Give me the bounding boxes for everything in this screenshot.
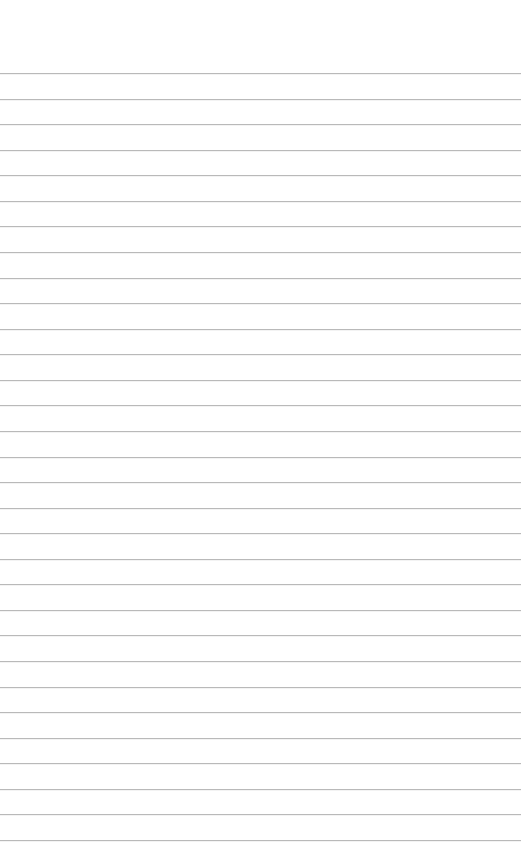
ruled-line (0, 687, 521, 688)
lined-paper-page (0, 0, 522, 867)
ruled-line (0, 405, 521, 406)
ruled-line (0, 175, 521, 176)
ruled-line (0, 150, 521, 151)
ruled-line (0, 99, 521, 100)
ruled-line (0, 482, 521, 483)
ruled-line (0, 712, 521, 713)
ruled-line (0, 610, 521, 611)
ruled-line (0, 201, 521, 202)
ruled-line (0, 431, 521, 432)
ruled-line (0, 354, 521, 355)
ruled-line (0, 559, 521, 560)
ruled-line (0, 124, 521, 125)
ruled-line (0, 73, 521, 74)
ruled-line (0, 303, 521, 304)
ruled-line (0, 329, 521, 330)
ruled-line (0, 226, 521, 227)
ruled-line (0, 814, 521, 815)
ruled-line (0, 789, 521, 790)
ruled-line (0, 840, 521, 841)
ruled-line (0, 533, 521, 534)
ruled-line (0, 661, 521, 662)
ruled-line (0, 635, 521, 636)
ruled-line (0, 252, 521, 253)
ruled-line (0, 738, 521, 739)
ruled-line (0, 457, 521, 458)
ruled-line (0, 763, 521, 764)
ruled-line (0, 380, 521, 381)
ruled-line (0, 584, 521, 585)
ruled-line (0, 508, 521, 509)
ruled-line (0, 278, 521, 279)
